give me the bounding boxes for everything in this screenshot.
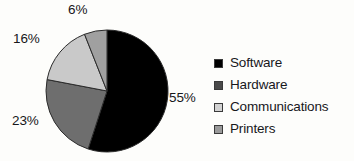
legend-item-communications: Communications <box>214 96 354 118</box>
slice-value-label-hardware: 23% <box>12 113 39 128</box>
chart-legend: Software Hardware Communications Printer… <box>214 52 354 140</box>
slice-value-label-communications: 16% <box>13 31 40 46</box>
legend-label-hardware: Hardware <box>230 78 287 92</box>
slice-value-label-printers: 6% <box>68 2 87 17</box>
legend-label-communications: Communications <box>230 100 328 114</box>
pie-chart-figure: 55% 23% 16% 6% Software Hardware Communi… <box>0 0 354 161</box>
slice-value-label-software: 55% <box>169 90 196 105</box>
legend-item-software: Software <box>214 52 354 74</box>
legend-item-printers: Printers <box>214 118 354 140</box>
pie-plot-area: 55% 23% 16% 6% <box>0 0 210 161</box>
pie-svg <box>0 0 210 161</box>
legend-swatch-icon-software <box>214 59 223 68</box>
legend-label-printers: Printers <box>230 122 275 136</box>
pie-slice-group <box>46 30 168 152</box>
legend-swatch-icon-hardware <box>214 81 223 90</box>
legend-item-hardware: Hardware <box>214 74 354 96</box>
legend-label-software: Software <box>230 56 282 70</box>
legend-swatch-icon-communications <box>214 103 223 112</box>
legend-swatch-icon-printers <box>214 125 223 134</box>
